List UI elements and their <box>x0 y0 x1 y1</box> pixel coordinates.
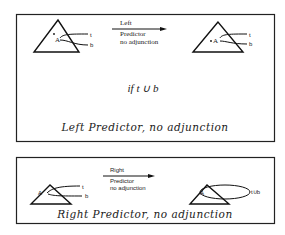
arrow-label-1: Left <box>120 19 132 27</box>
feature-t: t <box>249 32 251 38</box>
feature-b: b <box>249 41 253 47</box>
tree-before: A t b <box>34 20 94 52</box>
feature-t: t <box>82 184 84 190</box>
arrow-label-3: no adjunction <box>110 185 146 191</box>
arrow-label-2: Predictor <box>120 30 146 38</box>
arrow-label-3: no adjunction <box>120 38 159 46</box>
feature-b: b <box>85 193 89 199</box>
arrow-label-1: Right <box>110 167 124 173</box>
arrowhead-icon <box>148 174 155 178</box>
feature-loop <box>200 185 250 199</box>
feature-line-t <box>60 34 88 38</box>
feature-line-b <box>48 194 82 196</box>
tree-before: A t b <box>31 184 89 204</box>
condition-text: if t ∪ b <box>128 82 159 94</box>
node-label: A <box>213 37 218 45</box>
feature-line-t <box>220 34 247 38</box>
tree-triangle <box>190 185 229 204</box>
tree-after: A t b <box>193 22 253 52</box>
tree-after: A t∪b <box>190 185 261 204</box>
feature-tub: t∪b <box>251 189 261 195</box>
node-label: A <box>55 36 60 44</box>
panel-left-predictor: A t b Left Predictor no adjunction A t b… <box>17 15 275 142</box>
transition-arrow: Left Predictor no adjunction <box>112 19 167 46</box>
feature-b: b <box>90 42 94 48</box>
dot-marker <box>53 33 55 35</box>
predictor-diagram: A t b Left Predictor no adjunction A t b… <box>0 0 285 235</box>
panel-caption: Right Predictor, no adjunction <box>56 208 232 220</box>
panel-right-predictor: A t b Right Predictor no adjunction A t∪… <box>17 158 275 224</box>
transition-arrow: Right Predictor no adjunction <box>103 167 155 191</box>
arrow-label-2: Predictor <box>110 178 134 184</box>
panel-caption: Left Predictor, no adjunction <box>60 121 228 133</box>
arrowhead-icon <box>160 27 167 31</box>
dot-marker <box>210 40 212 42</box>
node-label: A <box>38 190 42 196</box>
feature-t: t <box>90 32 92 38</box>
